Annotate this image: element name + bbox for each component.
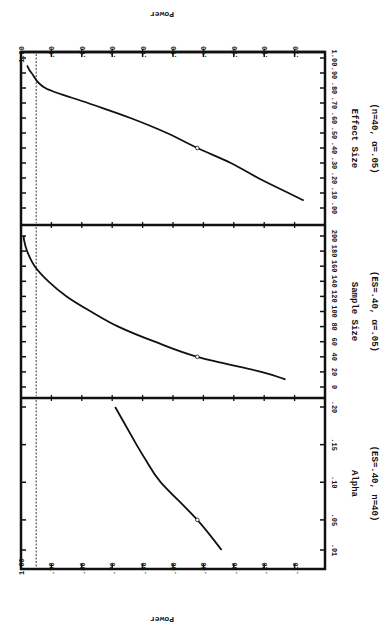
- panel-subtitle: (ES=.40, n=40): [369, 446, 379, 522]
- x-tick-label: .20: [330, 172, 338, 185]
- x-tick-label: .40: [330, 142, 338, 155]
- x-tick-label: .70: [330, 97, 338, 110]
- x-tick-label: 0: [330, 385, 338, 389]
- x-tick-label: .80: [330, 82, 338, 95]
- x-tick-label: 1.00: [330, 50, 338, 67]
- panel-title: Alpha: [349, 470, 359, 498]
- x-tick-label: .05: [330, 514, 338, 527]
- x-tick-label: 140: [330, 275, 338, 288]
- power-curve-alpha: [115, 407, 221, 550]
- power-curve-effect-size: [27, 66, 304, 201]
- x-tick-label: .50: [330, 127, 338, 140]
- power-curve-sample-size: [24, 236, 286, 379]
- x-tick-label: 100: [330, 305, 338, 318]
- x-tick-label: .00: [330, 202, 338, 215]
- power-axis-bottom: 1.00.90.80.70.60.50.40.30.20.10: [18, 558, 300, 575]
- x-tick-label: 60: [330, 337, 338, 345]
- x-tick-label: 80: [330, 322, 338, 330]
- x-tick-label: .90: [330, 67, 338, 80]
- x-tick-label: 160: [330, 260, 338, 273]
- x-tick-label: .15: [330, 438, 338, 451]
- panel-subtitle: (ES=.40, α=.05): [369, 271, 379, 352]
- x-tick-label: 200: [330, 230, 338, 243]
- x-tick-label: 40: [330, 353, 338, 361]
- x-tick-label: 20: [330, 368, 338, 376]
- current-value-marker: [196, 146, 200, 150]
- power-axis-top: 1.00.90.80.70.60.50.40.30.20.10: [18, 46, 300, 63]
- x-tick-label: .01: [330, 544, 338, 557]
- panel-subtitle: (n=40, α=.05): [369, 103, 379, 173]
- x-tick-label: .60: [330, 112, 338, 125]
- x-tick-label: .10: [330, 476, 338, 489]
- panel-title: Effect Size: [349, 109, 359, 168]
- power-axis-title-top: Power: [150, 10, 174, 19]
- x-tick-label: .30: [330, 157, 338, 170]
- x-tick-label: 180: [330, 245, 338, 258]
- power-analysis-chart: 1.00.90.80.70.60.50.40.30.20.10 1.00.90.…: [0, 0, 388, 626]
- current-value-marker: [196, 355, 200, 359]
- x-tick-label: 120: [330, 290, 338, 303]
- panel-title: Sample Size: [349, 282, 359, 341]
- current-value-marker: [196, 518, 200, 522]
- x-tick-label: .10: [330, 187, 338, 200]
- power-axis-title-bottom: Power: [150, 615, 174, 624]
- x-tick-label: .20: [330, 401, 338, 414]
- plot-frame: [21, 52, 325, 569]
